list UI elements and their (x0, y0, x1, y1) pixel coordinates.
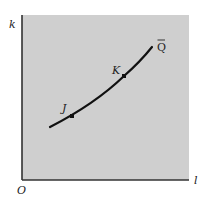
x-axis-label: l (194, 174, 198, 187)
origin-label: O (17, 184, 26, 197)
point-j-label: J (60, 102, 67, 115)
point-k-marker (122, 74, 126, 78)
y-axis-label: k (9, 18, 16, 31)
point-j-marker (70, 114, 74, 118)
isoquant-diagram: k O l J K Q (0, 0, 206, 202)
curve-label: Q (157, 41, 166, 54)
point-k-label: K (111, 64, 121, 77)
